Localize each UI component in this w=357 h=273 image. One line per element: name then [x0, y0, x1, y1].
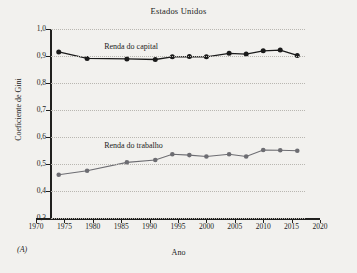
series-canvas — [51, 29, 305, 218]
gridline — [51, 110, 305, 111]
x-tick-mark — [235, 220, 236, 223]
data-point — [244, 154, 249, 159]
y-tick-label: 0,9 — [0, 51, 46, 60]
y-tick-mark — [46, 164, 50, 165]
gini-line-chart-figure: Estados Unidos 1,00,90,80,70,60,50,40,3 … — [0, 0, 357, 273]
x-tick-mark — [206, 220, 207, 223]
y-tick-mark — [46, 110, 50, 111]
gridline — [51, 164, 305, 165]
gridline — [51, 83, 305, 84]
plot-area: Renda do capital Renda do trabalho — [51, 29, 305, 218]
y-tick-mark — [46, 29, 50, 30]
x-tick-mark — [263, 220, 264, 223]
data-point — [56, 173, 61, 178]
x-tick-mark — [150, 220, 151, 223]
y-tick-label: 1,0 — [0, 24, 46, 33]
data-point — [278, 48, 283, 53]
series-label-capital: Renda do capital — [104, 42, 158, 51]
x-axis-title: Ano — [0, 248, 357, 257]
gridline — [51, 56, 305, 57]
y-tick-mark — [46, 56, 50, 57]
data-point — [204, 154, 209, 159]
data-point — [124, 56, 129, 61]
x-tick-mark — [292, 220, 293, 223]
series-line-labor — [59, 150, 298, 175]
y-tick-label: 0,7 — [0, 105, 46, 114]
data-point — [187, 153, 192, 158]
y-tick-mark — [46, 83, 50, 84]
gridline — [51, 191, 305, 192]
gridline — [51, 29, 305, 30]
data-point — [261, 48, 266, 53]
data-point — [85, 168, 90, 173]
x-tick-label: 2020 — [303, 222, 337, 231]
x-tick-mark — [178, 220, 179, 223]
y-tick-label: 0,4 — [0, 186, 46, 195]
x-tick-mark — [36, 220, 37, 223]
y-tick-mark — [46, 218, 50, 219]
data-point — [153, 57, 158, 62]
gridline — [51, 137, 305, 138]
data-point — [295, 148, 300, 153]
data-point — [56, 49, 61, 54]
data-point — [227, 152, 232, 157]
x-tick-mark — [121, 220, 122, 223]
y-tick-label: 0,6 — [0, 132, 46, 141]
y-tick-mark — [46, 191, 50, 192]
data-point — [170, 152, 175, 157]
x-tick-mark — [93, 220, 94, 223]
y-axis-title: Coeficiente de Gini — [14, 45, 23, 175]
chart-title: Estados Unidos — [0, 6, 357, 16]
data-point — [278, 148, 283, 153]
gridline — [51, 218, 305, 219]
panel-letter: (A) — [17, 245, 27, 254]
y-tick-mark — [46, 137, 50, 138]
y-tick-label: 0,5 — [0, 159, 46, 168]
x-axis-tick-labels: 1970197519801985199019952000200520102015… — [0, 222, 357, 236]
series-label-labor: Renda do trabalho — [104, 141, 163, 150]
data-point — [153, 158, 158, 163]
x-tick-mark — [64, 220, 65, 223]
y-tick-label: 0,8 — [0, 78, 46, 87]
x-tick-mark — [320, 220, 321, 223]
data-point — [261, 148, 266, 153]
